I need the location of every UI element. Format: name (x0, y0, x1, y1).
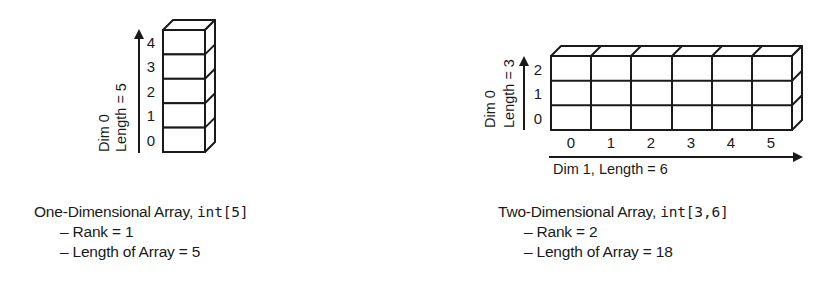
cell-4 (163, 30, 205, 54)
one-d-type-code: int[5] (197, 204, 248, 220)
one-d-array: 0 1 2 3 4 Dim 0 Length = 5 (96, 20, 215, 153)
index-label: 1 (147, 107, 155, 124)
row-index-label: 2 (534, 61, 542, 78)
dim1-label: Dim 1, Length = 6 (553, 161, 668, 177)
two-d-caption-title: Two-Dimensional Array, int[3,6] (498, 202, 728, 222)
row-index-label: 1 (534, 85, 542, 102)
one-d-rank: – Rank = 1 (34, 222, 248, 242)
index-label: 3 (147, 58, 155, 75)
two-d-array: 0 1 2 Dim 0 Length = 3 0 1 2 3 4 5 Dim 1… (482, 46, 802, 177)
two-d-rank: – Rank = 2 (498, 222, 728, 242)
one-d-caption-text: One-Dimensional Array, (34, 203, 197, 220)
one-d-length: – Length of Array = 5 (34, 242, 248, 262)
cell-1 (163, 103, 205, 127)
cell-3 (163, 54, 205, 78)
dim0-length-label: Length = 3 (501, 59, 517, 128)
one-d-caption-title: One-Dimensional Array, int[5] (34, 202, 248, 222)
two-d-side-face (792, 46, 802, 130)
col-index-label: 3 (687, 134, 695, 151)
two-d-length: – Length of Array = 18 (498, 242, 728, 262)
col-index-label: 0 (567, 134, 575, 151)
row-index-label: 0 (534, 110, 542, 127)
col-index-label: 5 (767, 134, 775, 151)
col-index-label: 2 (647, 134, 655, 151)
index-label: 0 (147, 132, 155, 149)
cell-2 (163, 79, 205, 103)
two-d-cells (551, 56, 792, 130)
one-d-caption: One-Dimensional Array, int[5] – Rank = 1… (34, 202, 248, 262)
two-d-caption-text: Two-Dimensional Array, (498, 203, 660, 220)
index-label: 2 (147, 83, 155, 100)
two-d-caption: Two-Dimensional Array, int[3,6] – Rank =… (498, 202, 728, 262)
cell-0 (163, 128, 205, 152)
dim0-label: Dim 0 (96, 114, 112, 152)
index-label: 4 (147, 34, 155, 51)
two-d-type-code: int[3,6] (660, 204, 728, 220)
dim0-label: Dim 0 (482, 90, 498, 128)
one-d-cells (163, 30, 205, 152)
dim0-length-label: Length = 5 (113, 83, 129, 152)
col-index-label: 4 (727, 134, 735, 151)
col-index-label: 1 (607, 134, 615, 151)
